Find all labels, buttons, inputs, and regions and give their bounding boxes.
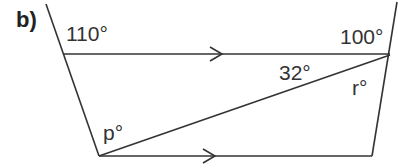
diagonal-line — [99, 55, 390, 156]
part-label: b) — [16, 9, 37, 31]
angle-label-32: 32° — [279, 62, 311, 83]
geometry-diagram — [0, 0, 398, 168]
angle-label-110: 110° — [66, 23, 108, 44]
angle-label-100: 100° — [340, 26, 383, 47]
angle-label-r: r° — [352, 77, 367, 98]
angle-label-p: p° — [103, 122, 123, 143]
diagram-container: b) 110° 100° 32° r° p° — [0, 0, 398, 168]
